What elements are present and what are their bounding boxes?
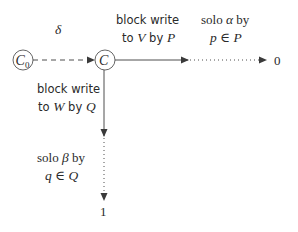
output-1: 1 [100,204,107,219]
node-c0: C 0 [13,50,33,70]
label-to-v-by-p: to V by P [122,30,175,45]
diagram-canvas: C 0 C δ block write to V by P solo α by … [0,0,298,232]
label-solo-alpha: solo α by [201,12,250,27]
svg-text:C: C [99,53,109,68]
svg-text:p ∈ P: p ∈ P [209,30,242,45]
svg-text:δ: δ [55,22,62,37]
node-c: C [95,50,115,70]
svg-text:block write: block write [37,82,100,96]
svg-text:C: C [16,53,26,68]
edge-block-write-w: block write to W by Q [37,70,104,136]
label-to-w-by-q: to W by Q [38,99,96,114]
svg-text:0: 0 [25,60,30,70]
label-solo-beta: solo β by [37,150,85,165]
edge-solo-beta: solo β by q ∈ Q [37,138,104,200]
output-0: 0 [274,53,281,68]
edge-solo-alpha: solo α by p ∈ P [190,12,266,60]
svg-text:block write: block write [116,13,179,27]
svg-text:q ∈ Q: q ∈ Q [45,168,78,183]
edge-block-write-v: block write to V by P [115,13,188,60]
edge-delta: δ [33,22,94,60]
